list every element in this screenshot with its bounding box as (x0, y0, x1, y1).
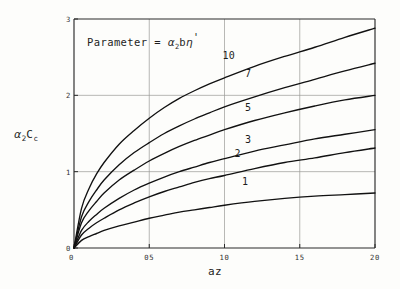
y-axis-alpha-symbol: α (14, 128, 22, 141)
chart-figure: 005101520 0123 1075321 az α2Cc Parameter… (0, 0, 400, 289)
parameter-prime-symbol: ' (193, 32, 199, 43)
x-tick-label: 0 (69, 254, 74, 261)
x-tick-label: 20 (370, 254, 380, 261)
x-tick-label: 15 (295, 254, 305, 261)
y-tick-label: 0 (66, 245, 71, 252)
x-tick-label: 05 (144, 254, 154, 261)
series-label-7: 7 (245, 69, 251, 79)
series-label-3: 3 (245, 135, 251, 145)
series-label-5: 5 (245, 103, 251, 113)
x-tick-label: 10 (220, 254, 230, 261)
x-axis-title: az (208, 266, 222, 277)
series-label-1: 1 (242, 177, 248, 187)
y-tick-label: 3 (66, 16, 71, 23)
x-axis-title-text: az (208, 265, 222, 278)
y-tick-label: 2 (66, 92, 71, 99)
y-axis-title: α2Cc (14, 129, 38, 143)
chart-plot-area (0, 0, 400, 289)
parameter-alpha-symbol: α (168, 36, 175, 48)
series-label-2: 2 (235, 149, 241, 159)
y-tick-label: 1 (66, 169, 71, 176)
parameter-note-prefix: Parameter = (87, 36, 168, 48)
parameter-annotation: Parameter = α2bη' (87, 33, 200, 50)
series-label-10: 10 (223, 51, 236, 61)
y-axis-c-subscript: c (33, 134, 38, 143)
